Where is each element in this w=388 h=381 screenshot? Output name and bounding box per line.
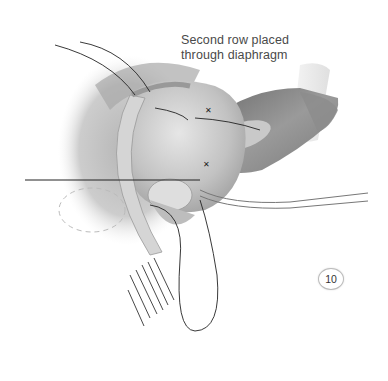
needle-bundle [128,258,174,326]
svg-text:✕: ✕ [203,160,210,169]
figure-caption: Second row placed through diaphragm [181,33,289,63]
caption-line-2: through diaphragm [181,48,289,63]
figure-number-badge: 10 [318,268,344,290]
svg-text:✕: ✕ [205,106,212,115]
caption-line-1: Second row placed [181,33,289,48]
